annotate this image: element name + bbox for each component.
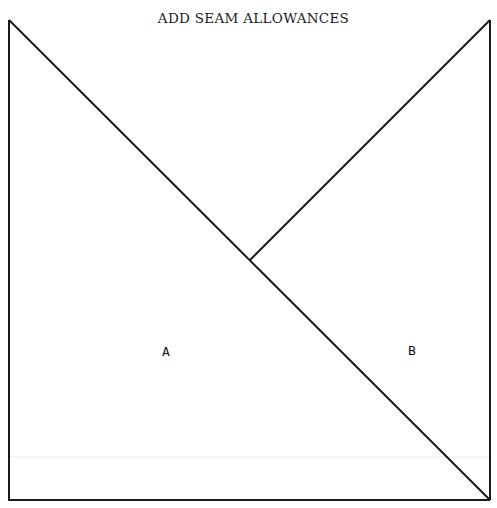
quilt-block-diagram [0, 0, 497, 508]
piece-label-a: A [162, 344, 170, 359]
secondary-diagonal [250, 20, 490, 260]
piece-label-b: B [408, 343, 416, 358]
